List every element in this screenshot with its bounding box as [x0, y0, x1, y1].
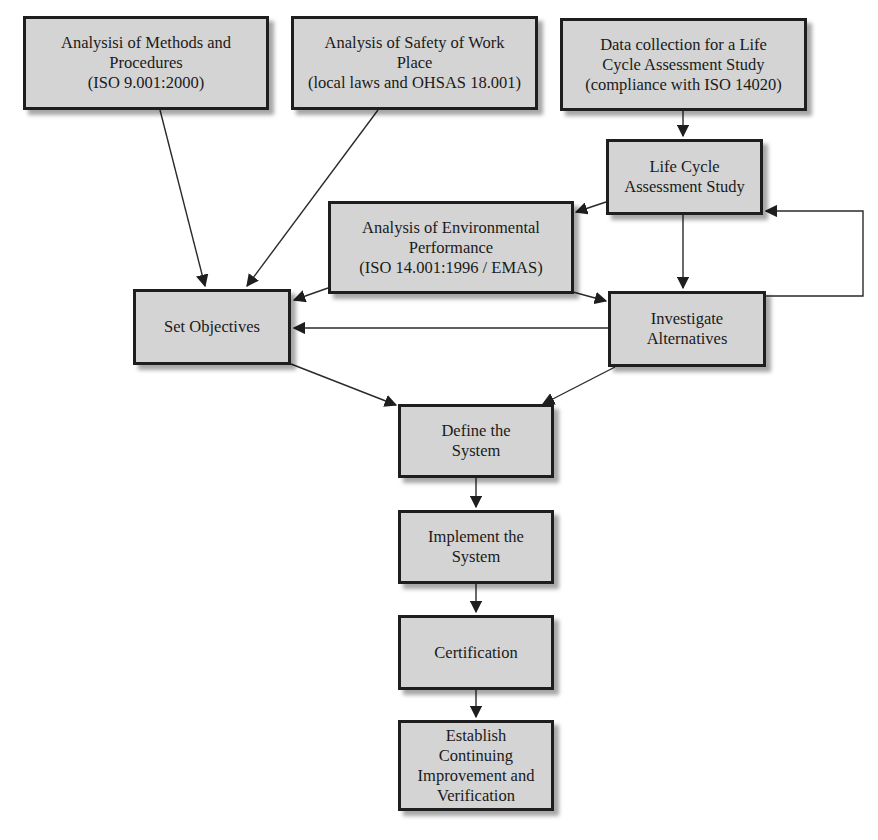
- node-set-objectives: Set Objectives: [133, 289, 291, 365]
- edge-lca-to-envperf: [576, 202, 606, 212]
- node-label: Data collection for a Life Cycle Assessm…: [585, 35, 782, 95]
- node-certification: Certification: [398, 615, 554, 690]
- node-label: Analysisi of Methods and Procedures (ISO…: [61, 33, 231, 93]
- node-label: Analysis of Safety of Work Place (local …: [308, 33, 521, 93]
- node-define-system: Define the System: [398, 404, 554, 478]
- edge-envperf-to-objectives: [294, 288, 328, 300]
- edge-objectives-to-define: [291, 364, 396, 405]
- node-continuing-improvement: Establish Continuing Improvement and Ver…: [398, 720, 554, 811]
- node-label: Establish Continuing Improvement and Ver…: [418, 726, 535, 806]
- edge-alternatives-to-define: [543, 367, 615, 404]
- edge-methods-to-objectives: [160, 110, 205, 286]
- node-safety-work-place: Analysis of Safety of Work Place (local …: [291, 16, 538, 110]
- node-label: Certification: [434, 643, 517, 663]
- edge-alternatives-to-lca: [766, 211, 863, 296]
- node-label: Investigate Alternatives: [647, 309, 728, 349]
- node-data-collection: Data collection for a Life Cycle Assessm…: [560, 18, 807, 111]
- node-lca-study: Life Cycle Assessment Study: [606, 139, 763, 215]
- node-label: Implement the System: [428, 527, 524, 567]
- node-implement-system: Implement the System: [398, 510, 554, 584]
- node-methods-procedures: Analysisi of Methods and Procedures (ISO…: [23, 16, 269, 110]
- flowchart-canvas: Analysisi of Methods and Procedures (ISO…: [0, 0, 878, 840]
- node-label: Set Objectives: [164, 317, 260, 337]
- node-label: Define the System: [441, 421, 510, 461]
- edge-envperf-to-alternatives: [573, 292, 606, 301]
- node-investigate-alternatives: Investigate Alternatives: [608, 291, 766, 367]
- node-label: Life Cycle Assessment Study: [624, 157, 745, 197]
- node-label: Analysis of Environmental Performance (I…: [359, 218, 542, 278]
- node-environmental-performance: Analysis of Environmental Performance (I…: [328, 201, 574, 294]
